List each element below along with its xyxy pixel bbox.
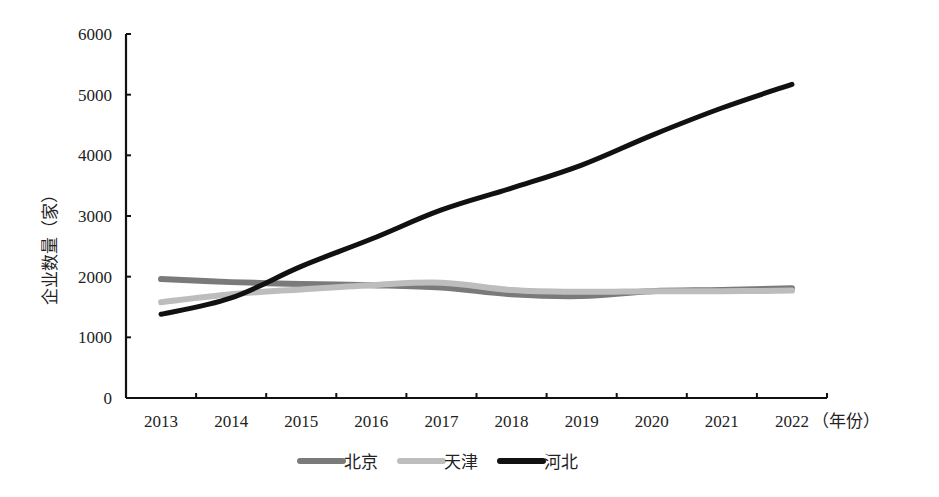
x-tick-label: 2016 — [354, 412, 388, 431]
series-line-2 — [161, 84, 792, 314]
x-tick-label: 2022 — [775, 412, 809, 431]
line-chart: 0100020003000400050006000 20132014201520… — [0, 0, 939, 497]
x-axis-title: （年份） — [812, 411, 880, 431]
legend-label: 河北 — [544, 452, 578, 472]
x-tick-label: 2019 — [565, 412, 599, 431]
y-tick-label: 0 — [104, 389, 113, 408]
y-tick-label: 1000 — [78, 328, 112, 347]
legend: 北京天津河北 — [300, 452, 578, 472]
x-tick-label: 2021 — [705, 412, 739, 431]
y-tick-label: 2000 — [78, 268, 112, 287]
y-tick-label: 3000 — [78, 207, 112, 226]
series-lines — [161, 84, 792, 314]
legend-label: 北京 — [344, 452, 378, 472]
x-tick-label: 2013 — [144, 412, 178, 431]
y-axis: 0100020003000400050006000 — [78, 25, 131, 408]
legend-label: 天津 — [444, 452, 478, 472]
x-tick-label: 2017 — [424, 412, 459, 431]
y-tick-label: 6000 — [78, 25, 112, 44]
x-tick-label: 2020 — [635, 412, 669, 431]
x-tick-label: 2015 — [284, 412, 318, 431]
x-tick-label: 2014 — [214, 412, 249, 431]
x-tick-label: 2018 — [495, 412, 529, 431]
x-axis: 2013201420152016201720182019202020212022… — [126, 393, 880, 431]
y-tick-label: 5000 — [78, 86, 112, 105]
y-tick-label: 4000 — [78, 146, 112, 165]
y-axis-title: 企业数量（家） — [40, 186, 60, 305]
